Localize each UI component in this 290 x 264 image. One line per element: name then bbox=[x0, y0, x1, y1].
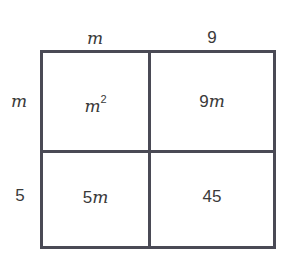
cell-var: m bbox=[92, 187, 108, 207]
side-label-m: m bbox=[4, 91, 34, 111]
cell-m-squared: m2 bbox=[43, 91, 148, 117]
cell-coef: 9 bbox=[199, 92, 208, 111]
side-label-5: 5 bbox=[8, 186, 32, 206]
cell-45: 45 bbox=[151, 187, 273, 207]
horizontal-divider bbox=[43, 150, 273, 153]
cell-coef: 5 bbox=[83, 188, 92, 207]
area-model-grid: m2 9m 5m 45 bbox=[40, 50, 276, 249]
top-label-9: 9 bbox=[192, 28, 232, 48]
cell-5m: 5m bbox=[43, 187, 148, 208]
cell-base: m bbox=[84, 96, 100, 116]
top-label-m: m bbox=[75, 28, 115, 48]
cell-9m: 9m bbox=[151, 91, 273, 112]
cell-exponent: 2 bbox=[101, 93, 107, 105]
cell-var: m bbox=[209, 91, 225, 111]
